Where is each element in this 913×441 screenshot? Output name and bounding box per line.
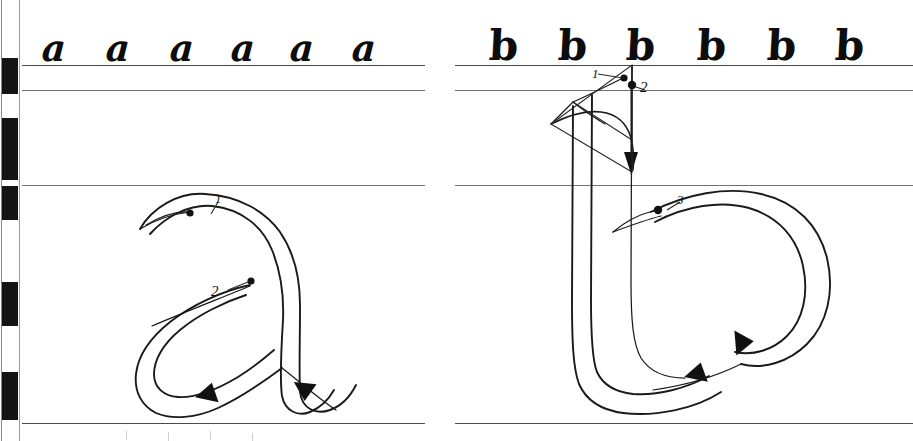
b-stroke1-serif-tail <box>551 102 573 124</box>
b-stroke2-stem-right-edge <box>591 95 709 394</box>
a-stroke1-outer-outline <box>140 194 356 412</box>
large-letter-a-diagram: 1 2 <box>0 0 425 441</box>
faint-tick-3 <box>210 431 211 440</box>
edge-bar-segment-2 <box>2 118 18 180</box>
faint-tick-1 <box>126 431 127 440</box>
a-exit-hairline <box>282 368 336 410</box>
letter-b-panel: b b b b b b 1 <box>455 0 913 441</box>
edge-bar-segment-4 <box>2 282 18 326</box>
calligraphy-guide-page: a a a a a a 1 <box>0 0 913 441</box>
a-stroke1-inner-outline <box>150 206 334 414</box>
b-stroke3-entry-tail <box>613 216 661 232</box>
a-stroke2-inner-outline <box>154 295 274 397</box>
b-stroke1-number: 1 <box>592 66 599 81</box>
b-stroke3-start-dot <box>654 206 662 214</box>
registration-edge-bar <box>0 0 22 441</box>
b-stroke1-start-dot <box>620 74 627 81</box>
b-stroke2-start-dot <box>628 81 636 89</box>
large-letter-b-diagram: 1 2 <box>455 0 913 441</box>
a-stroke1-start-dot <box>186 209 193 216</box>
faint-tick-2 <box>168 432 169 441</box>
a-stroke2-arrow-head <box>195 380 222 402</box>
b-stem-construction-diag <box>573 102 632 140</box>
a-stroke1-arrow-head <box>293 372 321 401</box>
b-stroke3-entry-arch <box>613 211 653 232</box>
edge-bar-segment-1 <box>2 58 18 94</box>
b-stroke3-bowl-inner <box>655 204 805 353</box>
a-stroke2-diagonal-hairline <box>152 286 250 326</box>
a-stroke1-number: 1 <box>215 191 222 206</box>
edge-bar-segment-3 <box>2 186 18 220</box>
edge-bar-segment-5 <box>2 372 18 420</box>
edge-bar-frame-right <box>19 0 20 441</box>
b-stroke3-arrow-head <box>725 330 754 359</box>
b-stroke2-number: 2 <box>640 79 648 95</box>
faint-tick-4 <box>252 433 253 441</box>
a-stroke2-start-dot <box>247 277 254 284</box>
b-stroke3-number: 3 <box>676 192 684 207</box>
letter-a-panel: a a a a a a 1 <box>0 0 425 441</box>
a-stroke2-number: 2 <box>211 283 219 299</box>
